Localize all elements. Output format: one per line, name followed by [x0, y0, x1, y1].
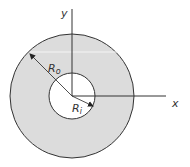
annulus-diagram: y x Ro Ri: [0, 0, 190, 167]
diagram-canvas: y x Ro Ri: [0, 0, 190, 167]
x-axis-label: x: [171, 97, 179, 110]
y-axis-label: y: [60, 7, 68, 20]
